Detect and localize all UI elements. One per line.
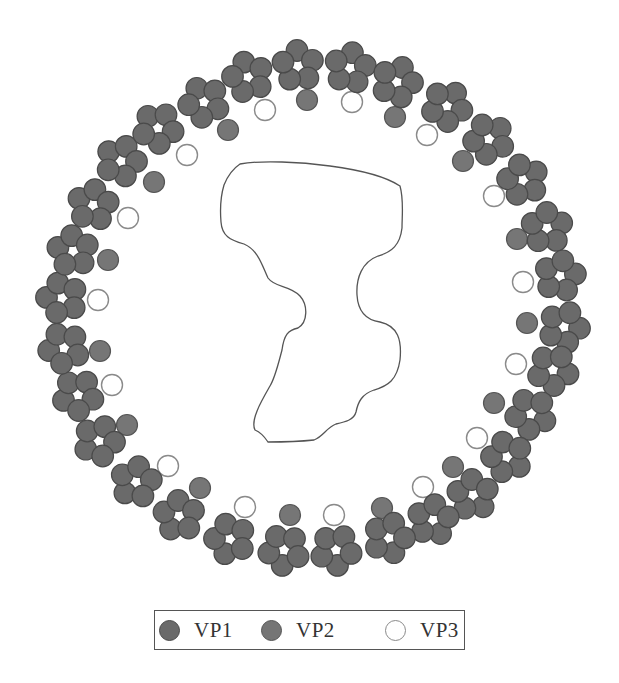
vp1-pentamer xyxy=(178,78,229,129)
vp3-subunit xyxy=(255,100,276,121)
vp3-subunit xyxy=(342,92,363,113)
legend-label-vp1: VP1 xyxy=(194,618,233,643)
vp1-pentamer xyxy=(373,57,423,108)
vp3-subunit xyxy=(324,505,345,526)
vp2-swatch-icon xyxy=(261,620,282,641)
vp1-pentamer xyxy=(222,51,272,102)
vp3-subunit xyxy=(467,428,488,449)
vp3-subunit xyxy=(235,497,256,518)
vp1-pentamer xyxy=(258,526,309,577)
legend-label-vp3: VP3 xyxy=(420,618,459,643)
vp1-pentamer xyxy=(112,456,163,507)
vp2-subunit xyxy=(517,313,538,334)
vp1-pentamers xyxy=(36,40,591,577)
vp2-subunit xyxy=(190,478,211,499)
vp1-pentamer xyxy=(204,513,254,564)
vp2-subunit xyxy=(144,172,165,193)
legend-item-vp1: VP1 xyxy=(159,611,233,649)
genome-outline-path xyxy=(221,162,403,442)
genome-outline xyxy=(221,162,403,442)
vp2-subunit xyxy=(98,250,119,271)
vp1-pentamer xyxy=(505,390,556,441)
vp2-subunit xyxy=(443,457,464,478)
vp2-subunit xyxy=(484,393,505,414)
vp2-subunit xyxy=(280,505,301,526)
vp3-subunit xyxy=(484,186,505,207)
vp1-pentamer xyxy=(521,202,572,252)
vp3-subunit xyxy=(417,125,438,146)
vp2-subunit xyxy=(453,151,474,172)
vp1-pentamer xyxy=(68,179,119,230)
vp2-subunit xyxy=(297,90,318,111)
capsid-diagram xyxy=(0,0,619,683)
vp1-pentamer xyxy=(311,526,362,576)
vp3-subunit xyxy=(177,145,198,166)
vp1-pentamer xyxy=(47,225,98,275)
vp1-pentamer xyxy=(133,104,184,154)
vp1-pentamer xyxy=(481,431,531,482)
legend-label-vp2: VP2 xyxy=(296,618,335,643)
vp2-subunit xyxy=(90,341,111,362)
vp1-pentamer xyxy=(36,272,86,323)
vp1-pentamer xyxy=(540,302,590,353)
vp1-swatch-icon xyxy=(159,620,180,641)
vp3-swatch-icon xyxy=(385,620,406,641)
vp2-subunits xyxy=(90,90,538,526)
vp1-pentamer xyxy=(53,371,104,421)
vp1-pentamer xyxy=(366,512,416,563)
vp2-subunit xyxy=(385,107,406,128)
vp1-pentamer xyxy=(272,40,323,90)
vp3-subunit xyxy=(102,375,123,396)
vp3-subunit xyxy=(513,272,534,293)
vp1-pentamer xyxy=(536,250,587,301)
vp2-subunit xyxy=(218,120,239,141)
vp3-subunit xyxy=(118,208,139,229)
legend-item-vp2: VP2 xyxy=(261,611,335,649)
vp3-subunit xyxy=(506,354,527,375)
vp3-subunit xyxy=(88,290,109,311)
legend: VP1 VP2 VP3 xyxy=(154,610,465,650)
legend-item-vp3: VP3 xyxy=(385,611,459,649)
vp1-pentamer xyxy=(38,323,89,374)
vp1-pentamer xyxy=(528,346,579,396)
vp1-pentamer xyxy=(325,42,376,93)
